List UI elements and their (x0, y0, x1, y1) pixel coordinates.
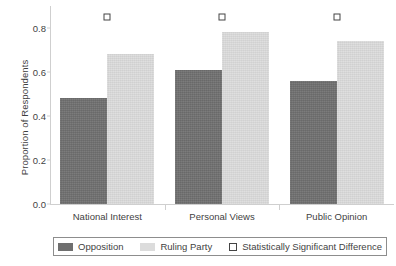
y-tick-label: 0.6 (33, 67, 46, 78)
bar-ruling-party (337, 41, 384, 204)
y-tick-label: 0.2 (33, 155, 46, 166)
bar-ruling-party (107, 54, 154, 204)
bar-opposition (60, 98, 107, 204)
legend-item-opposition[interactable]: Opposition (58, 241, 123, 252)
bar-ruling-party (222, 32, 269, 204)
y-axis-line (50, 6, 51, 204)
y-tick-mark (47, 28, 50, 29)
legend-label-ruling-party: Ruling Party (160, 241, 212, 252)
significance-marker (219, 14, 226, 21)
x-axis-label-1: Personal Views (189, 211, 254, 222)
bar-chart: Proportion of Respondents 0.00.20.40.60.… (0, 0, 396, 266)
y-tick-mark (47, 160, 50, 161)
chart-legend: Opposition Ruling Party Statistically Si… (53, 237, 387, 256)
y-tick-label: 0.0 (33, 199, 46, 210)
significance-marker (333, 14, 340, 21)
legend-item-ruling-party[interactable]: Ruling Party (140, 241, 212, 252)
y-tick-label: 0.8 (33, 23, 46, 34)
y-tick-mark (47, 72, 50, 73)
significance-marker (104, 14, 111, 21)
open-square-icon (229, 243, 237, 251)
legend-item-significance[interactable]: Statistically Significant Difference (229, 241, 382, 252)
x-tick-mark (165, 204, 166, 210)
y-tick-label: 0.4 (33, 111, 46, 122)
x-axis-line (50, 204, 394, 205)
bar-opposition (175, 70, 222, 204)
legend-swatch-opposition (58, 243, 73, 251)
x-tick-mark (279, 204, 280, 210)
legend-label-significance: Statistically Significant Difference (242, 241, 382, 252)
legend-label-opposition: Opposition (78, 241, 123, 252)
y-tick-mark (47, 116, 50, 117)
x-axis-label-0: National Interest (73, 211, 142, 222)
y-axis-title: Proportion of Respondents (19, 28, 30, 208)
x-axis-label-2: Public Opinion (306, 211, 367, 222)
legend-swatch-ruling-party (140, 243, 155, 251)
plot-area: 0.00.20.40.60.8 (50, 6, 394, 204)
bar-opposition (290, 81, 337, 204)
